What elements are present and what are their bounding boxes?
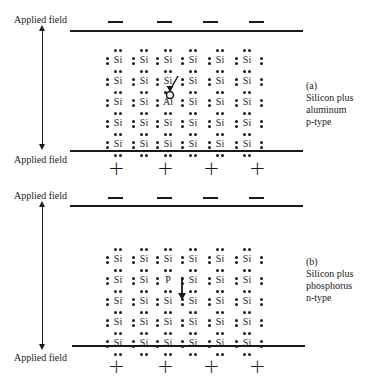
- bond-electron: [260, 78, 263, 81]
- silicon-atom: Si: [238, 317, 256, 327]
- silicon-atom: Si: [135, 97, 153, 107]
- silicon-atom: Si: [238, 118, 256, 128]
- bond-electron: [194, 154, 197, 157]
- bond-electron: [169, 49, 172, 52]
- bond-electron: [260, 57, 263, 60]
- bond-electron: [140, 154, 143, 157]
- dopant-atom: Al: [159, 97, 177, 107]
- bond-electron: [119, 91, 122, 94]
- silicon-atom: Si: [109, 254, 127, 264]
- bond-electron: [164, 248, 167, 251]
- bond-electron: [114, 311, 117, 314]
- bond-electron: [114, 290, 117, 293]
- bond-electron: [243, 248, 246, 251]
- bond-electron: [189, 311, 192, 314]
- bond-electron: [260, 277, 263, 280]
- silicon-atom: Si: [159, 76, 177, 86]
- bond-electron: [140, 269, 143, 272]
- bond-electron: [248, 332, 251, 335]
- bond-electron: [243, 353, 246, 356]
- bond-electron: [260, 319, 263, 322]
- bond-electron: [194, 91, 197, 94]
- bond-electron: [216, 91, 219, 94]
- minus-sign: [249, 197, 264, 199]
- bond-electron: [169, 311, 172, 314]
- dopant-atom: P: [159, 275, 177, 285]
- silicon-atom: Si: [211, 317, 229, 327]
- silicon-atom: Si: [184, 254, 202, 264]
- caption-letter: (a): [306, 80, 354, 92]
- bond-electron: [243, 133, 246, 136]
- bond-electron: [216, 269, 219, 272]
- bond-electron: [221, 154, 224, 157]
- bond-electron: [164, 112, 167, 115]
- bond-electron: [216, 70, 219, 73]
- bond-electron: [164, 332, 167, 335]
- bond-electron: [260, 83, 263, 86]
- silicon-atom: Si: [211, 118, 229, 128]
- bond-electron: [194, 70, 197, 73]
- bond-electron: [169, 70, 172, 73]
- caption-line: p-type: [306, 116, 354, 128]
- bond-electron: [243, 269, 246, 272]
- bond-electron: [140, 290, 143, 293]
- bond-electron: [169, 248, 172, 251]
- silicon-atom: Si: [184, 97, 202, 107]
- bond-electron: [164, 290, 167, 293]
- bond-electron: [260, 303, 263, 306]
- bond-electron: [119, 248, 122, 251]
- silicon-atom: Si: [211, 275, 229, 285]
- bond-electron: [243, 311, 246, 314]
- bond-electron: [248, 248, 251, 251]
- caption-line: phosphorus: [306, 280, 354, 292]
- bond-electron: [221, 353, 224, 356]
- plus-sign: +: [249, 158, 266, 178]
- silicon-atom: Si: [211, 254, 229, 264]
- silicon-atom: Si: [109, 296, 127, 306]
- bond-electron: [243, 290, 246, 293]
- silicon-atom: Si: [184, 139, 202, 149]
- bond-electron: [145, 91, 148, 94]
- silicon-atom: Si: [135, 254, 153, 264]
- bond-electron: [260, 256, 263, 259]
- silicon-atom: Si: [184, 317, 202, 327]
- bond-electron: [140, 332, 143, 335]
- bond-electron: [164, 70, 167, 73]
- bond-electron: [216, 290, 219, 293]
- silicon-atom: Si: [159, 118, 177, 128]
- bond-electron: [164, 269, 167, 272]
- bond-electron: [260, 99, 263, 102]
- bond-electron: [248, 269, 251, 272]
- bond-electron: [114, 49, 117, 52]
- bond-electron: [189, 332, 192, 335]
- silicon-atom: Si: [135, 118, 153, 128]
- bond-electron: [145, 269, 148, 272]
- bond-electron: [145, 112, 148, 115]
- bond-electron: [260, 282, 263, 285]
- bond-electron: [189, 290, 192, 293]
- bond-electron: [216, 133, 219, 136]
- bond-electron: [216, 311, 219, 314]
- silicon-atom: Si: [211, 296, 229, 306]
- bond-electron: [216, 248, 219, 251]
- bond-electron: [221, 248, 224, 251]
- bond-electron: [164, 91, 167, 94]
- bond-electron: [145, 154, 148, 157]
- bond-electron: [194, 248, 197, 251]
- bond-electron: [140, 112, 143, 115]
- bond-electron: [243, 49, 246, 52]
- bond-electron: [145, 49, 148, 52]
- bond-electron: [221, 311, 224, 314]
- minus-sign: [249, 21, 264, 23]
- silicon-atom: Si: [135, 296, 153, 306]
- bond-electron: [169, 133, 172, 136]
- minus-sign: [157, 197, 172, 199]
- bond-electron: [260, 298, 263, 301]
- bond-electron: [119, 112, 122, 115]
- applied-field-label-bottom: Applied field: [14, 352, 67, 363]
- bond-electron: [260, 62, 263, 65]
- silicon-atom: Si: [135, 317, 153, 327]
- minus-sign: [108, 197, 123, 199]
- plus-sign: +: [203, 356, 220, 376]
- silicon-atom: Si: [109, 55, 127, 65]
